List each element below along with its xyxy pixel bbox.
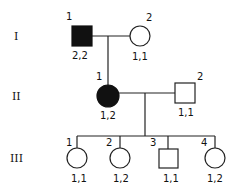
genotype-III-4: 1,2: [207, 173, 223, 184]
unaffected-female-III-1: [67, 148, 87, 168]
individual-number-I-2: 2: [146, 12, 152, 23]
genotype-III-2: 1,2: [113, 173, 129, 184]
genotype-III-3: 1,1: [163, 173, 179, 184]
affected-male-I-1: [72, 26, 92, 46]
unaffected-female-III-2: [110, 148, 130, 168]
genotype-III-1: 1,1: [71, 173, 87, 184]
individual-number-III-2: 2: [106, 137, 112, 148]
genotype-II-2: 1,1: [178, 107, 194, 118]
affected-female-II-1: [97, 85, 119, 107]
genotype-II-1: 1,2: [100, 110, 116, 121]
individual-number-I-1: 1: [66, 11, 72, 22]
individual-number-III-1: 1: [66, 137, 72, 148]
individual-number-III-4: 4: [201, 137, 207, 148]
individual-number-II-2: 2: [197, 71, 203, 82]
unaffected-male-II-2: [175, 83, 195, 103]
generation-label-3: III: [10, 152, 23, 165]
genotype-I-1: 2,2: [72, 50, 88, 61]
unaffected-female-I-2: [130, 26, 150, 46]
individual-number-II-1: 1: [96, 71, 102, 82]
genotype-I-2: 1,1: [132, 51, 148, 62]
generation-label-2: II: [12, 90, 21, 103]
unaffected-male-III-3: [159, 149, 178, 168]
individual-number-III-3: 3: [150, 137, 156, 148]
pedigree-chart: I II III 1 2,2 2 1,1 1 1,2 2 1,1 1 1,1 2…: [0, 0, 235, 195]
generation-label-1: I: [14, 30, 18, 43]
unaffected-female-III-4: [205, 148, 225, 168]
